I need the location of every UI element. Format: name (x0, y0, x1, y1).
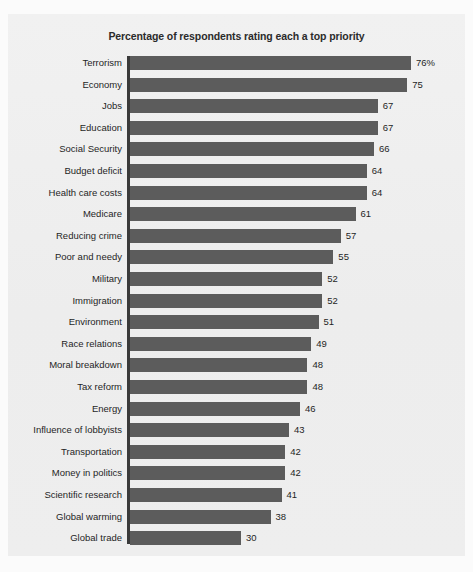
category-label: Influence of lobbyists (0, 423, 122, 437)
bar-value-label: 55 (338, 250, 349, 264)
bar-track (130, 186, 411, 200)
bar-track (130, 337, 411, 351)
bar-row: Environment51 (0, 315, 473, 337)
bar-value-label: 61 (361, 207, 372, 221)
category-label: Scientific research (0, 488, 122, 502)
bar-value-label: 38 (276, 510, 287, 524)
bar-row: Transportation42 (0, 445, 473, 467)
bar-row: Budget deficit64 (0, 164, 473, 186)
bar-row: Poor and needy55 (0, 250, 473, 272)
bar-chart-figure: Percentage of respondents rating each a … (0, 0, 473, 572)
bar-row: Medicare61 (0, 207, 473, 229)
category-label: Energy (0, 402, 122, 416)
bar (130, 531, 241, 545)
bar (130, 294, 322, 308)
bar-row: Influence of lobbyists43 (0, 423, 473, 445)
category-label: Economy (0, 78, 122, 92)
bar (130, 315, 319, 329)
bar-value-label: 52 (327, 272, 338, 286)
bar-value-label: 76% (416, 56, 435, 70)
bar (130, 121, 378, 135)
category-label: Social Security (0, 142, 122, 156)
bar-value-label: 42 (290, 445, 301, 459)
bar (130, 466, 285, 480)
plot-area: Terrorism76%Economy75Jobs67Education67So… (0, 56, 473, 556)
bar-value-label: 48 (312, 358, 323, 372)
bar (130, 99, 378, 113)
bar-track (130, 164, 411, 178)
bar-row: Health care costs64 (0, 186, 473, 208)
bar-value-label: 52 (327, 294, 338, 308)
bar-track (130, 272, 411, 286)
category-label: Terrorism (0, 56, 122, 70)
bar-row: Scientific research41 (0, 488, 473, 510)
bar-value-label: 41 (287, 488, 298, 502)
bar-value-label: 51 (324, 315, 335, 329)
bar (130, 337, 311, 351)
bar-track (130, 445, 411, 459)
bar-track (130, 402, 411, 416)
bar (130, 56, 411, 70)
category-label: Tax reform (0, 380, 122, 394)
bar-row: Energy46 (0, 402, 473, 424)
bar-track (130, 229, 411, 243)
category-label: Jobs (0, 99, 122, 113)
bar-track (130, 510, 411, 524)
bar-row: Reducing crime57 (0, 229, 473, 251)
category-label: Medicare (0, 207, 122, 221)
bar-track (130, 358, 411, 372)
bar (130, 488, 282, 502)
bar-value-label: 48 (312, 380, 323, 394)
category-label: Race relations (0, 337, 122, 351)
bar-row: Jobs67 (0, 99, 473, 121)
bar-track (130, 488, 411, 502)
bar (130, 358, 307, 372)
bar (130, 380, 307, 394)
bar-value-label: 75 (412, 78, 423, 92)
bar-row: Social Security66 (0, 142, 473, 164)
bar-value-label: 67 (383, 99, 394, 113)
category-label: Global trade (0, 531, 122, 545)
bar-track (130, 250, 411, 264)
chart-title: Percentage of respondents rating each a … (0, 30, 473, 42)
bar-value-label: 30 (246, 531, 257, 545)
bar-row: Race relations49 (0, 337, 473, 359)
bar (130, 164, 367, 178)
bar-track (130, 121, 411, 135)
category-label: Education (0, 121, 122, 135)
bar-value-label: 46 (305, 402, 316, 416)
category-label: Military (0, 272, 122, 286)
bar-row: Global trade30 (0, 531, 473, 553)
bar-value-label: 57 (346, 229, 357, 243)
bar-track (130, 423, 411, 437)
bar (130, 186, 367, 200)
category-label: Environment (0, 315, 122, 329)
bar-track (130, 294, 411, 308)
bar-value-label: 49 (316, 337, 327, 351)
bar-value-label: 64 (372, 164, 383, 178)
bar (130, 229, 341, 243)
bar-row: Economy75 (0, 78, 473, 100)
bar (130, 207, 356, 221)
bar-value-label: 43 (294, 423, 305, 437)
bar-track (130, 315, 411, 329)
bar-track (130, 380, 411, 394)
category-label: Transportation (0, 445, 122, 459)
category-label: Poor and needy (0, 250, 122, 264)
bar-row: Education67 (0, 121, 473, 143)
bar-track (130, 56, 411, 70)
bar-value-label: 64 (372, 186, 383, 200)
bar-track (130, 99, 411, 113)
bar (130, 510, 271, 524)
bar-row: Tax reform48 (0, 380, 473, 402)
bar-value-label: 66 (379, 142, 390, 156)
category-label: Global warming (0, 510, 122, 524)
bar (130, 423, 289, 437)
category-label: Immigration (0, 294, 122, 308)
category-label: Budget deficit (0, 164, 122, 178)
category-label: Moral breakdown (0, 358, 122, 372)
bar-row: Terrorism76% (0, 56, 473, 78)
bar-track (130, 531, 411, 545)
category-label: Reducing crime (0, 229, 122, 243)
bar-row: Moral breakdown48 (0, 358, 473, 380)
